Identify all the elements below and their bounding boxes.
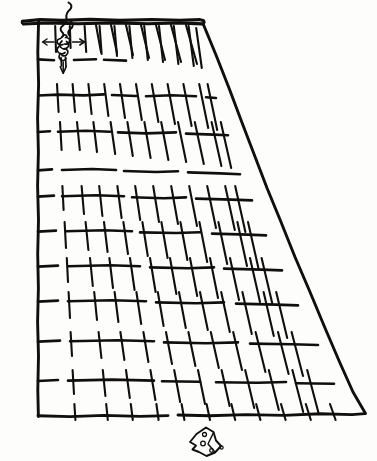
- weft-seg: [164, 342, 238, 343]
- weft-seg: [38, 266, 58, 267]
- weft-seg: [104, 60, 126, 61]
- weft-seg: [58, 131, 110, 132]
- weft-rows-group: [38, 59, 334, 384]
- weft-row: [38, 195, 252, 200]
- weft-seg: [38, 131, 50, 132]
- warp-thread: [174, 26, 286, 420]
- weft-seg: [68, 300, 146, 301]
- weft-row: [38, 340, 318, 345]
- top-beam-group: [22, 19, 205, 24]
- weft-seg: [140, 232, 200, 233]
- weft-seg: [66, 230, 132, 231]
- weft-seg: [132, 197, 186, 198]
- warp-thread: [85, 26, 133, 420]
- loom-weight-hole: [220, 446, 223, 449]
- weft-row: [38, 265, 282, 270]
- weft-seg: [124, 171, 178, 172]
- loom-weight-hole: [210, 449, 214, 453]
- warp-threads-group: [55, 25, 335, 420]
- weft-seg: [62, 169, 116, 170]
- beam-left-cap: [22, 21, 23, 24]
- weaving-diagram-figure: Warp-weighted loom with tangled warp thr…: [0, 0, 377, 461]
- top-beam-underside: [24, 23, 203, 24]
- right-arrow: [73, 39, 85, 45]
- weft-seg: [162, 381, 200, 382]
- loom-weight-outline: [190, 428, 221, 457]
- weft-seg: [74, 59, 96, 60]
- weft-seg: [38, 59, 54, 60]
- bottom-edge-group: [38, 414, 365, 417]
- loom-weight-group: [190, 428, 223, 457]
- weft-seg: [38, 301, 58, 302]
- top-beam: [23, 19, 204, 21]
- weft-seg: [62, 195, 124, 196]
- weft-seg: [250, 344, 318, 345]
- weft-row: [38, 230, 266, 235]
- weft-seg: [38, 380, 58, 381]
- weft-seg: [196, 199, 252, 201]
- weft-row: [39, 94, 217, 98]
- weft-seg: [216, 382, 286, 383]
- warp-thread: [144, 26, 235, 420]
- weft-seg: [68, 265, 140, 266]
- weft-seg: [296, 383, 334, 384]
- weft-row: [38, 380, 334, 384]
- weft-seg: [112, 95, 136, 96]
- left-selvedge: [38, 21, 39, 417]
- weft-seg: [188, 172, 240, 174]
- weft-row: [38, 131, 228, 135]
- left-arrow: [43, 39, 54, 45]
- beam-warp-stubs: [96, 25, 197, 64]
- weft-seg: [39, 94, 105, 95]
- weft-seg: [38, 231, 56, 232]
- loom-weight-hole: [201, 441, 206, 446]
- weft-seg: [150, 267, 214, 268]
- weft-seg: [68, 380, 154, 381]
- weft-row: [38, 169, 240, 174]
- warp-thread: [129, 26, 210, 420]
- weft-seg: [38, 169, 52, 170]
- weft-seg: [186, 134, 228, 136]
- bottom-edge: [38, 415, 168, 416]
- weft-seg: [38, 196, 54, 197]
- loom-weight-hole: [203, 433, 207, 437]
- diagram-canvas: Warp-weighted loom with tangled warp thr…: [0, 0, 377, 461]
- bottom-edge-right: [178, 414, 365, 416]
- weft-row: [38, 59, 126, 60]
- weft-seg: [70, 340, 154, 341]
- left-selvedge-group: [38, 21, 39, 417]
- weft-seg: [38, 341, 60, 342]
- warp-thread: [159, 26, 260, 420]
- weft-seg: [156, 302, 224, 303]
- warp-thread: [100, 26, 159, 420]
